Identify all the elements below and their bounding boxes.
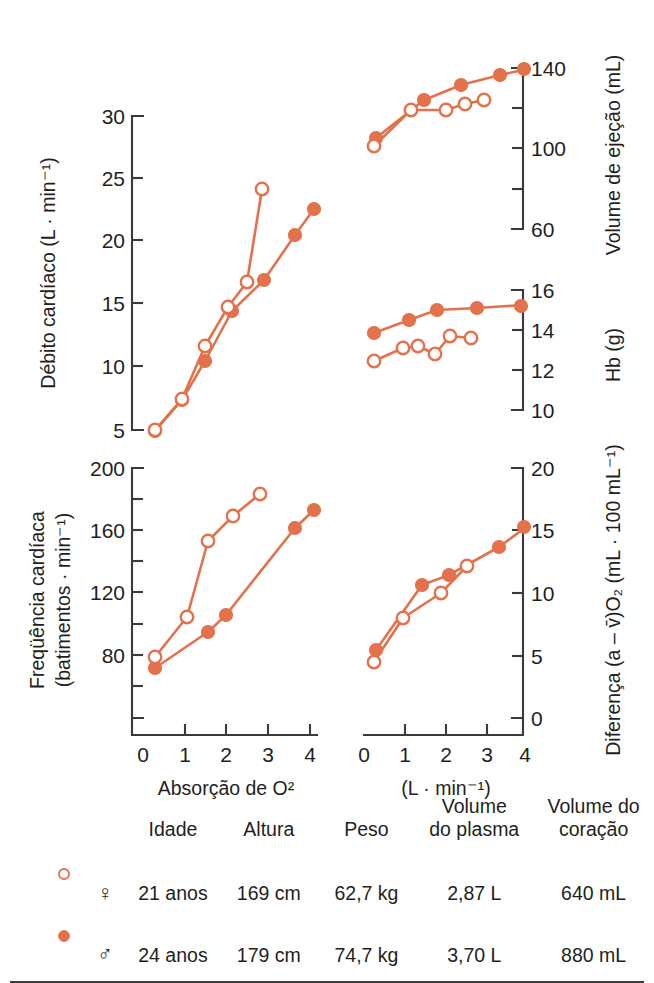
legend-row-female: ♀ 21 anos 169 cm 62,7 kg 2,87 L 640 mL	[44, 844, 654, 906]
ytick-label: 100	[531, 137, 566, 160]
xtick-label: 3	[481, 743, 493, 766]
stroke-volume-axis-title: Volume de ejeção (mL)	[602, 55, 624, 256]
legend-header-row: Idade Altura Peso Volume do plasma Volum…	[44, 795, 654, 844]
cardiac-output-axis-title: Débito cardíaco (L · min⁻¹)	[37, 157, 59, 388]
ytick-label: 12	[531, 359, 554, 382]
ytick-label: 120	[90, 581, 125, 604]
av-difference-axes	[364, 468, 523, 735]
legend-header-plasma: Volume do plasma	[415, 795, 533, 844]
xtick-label: 0	[358, 743, 370, 766]
legend-sex-header	[84, 795, 126, 844]
ytick-label: 15	[531, 519, 554, 542]
xtick-label: 2	[440, 743, 452, 766]
panel-cardiac-output: 30 25 20 15 10 5 Débito cardíaco (L · mi…	[37, 105, 320, 442]
legend-header-peso: Peso	[318, 795, 416, 844]
xtick-label: 4	[519, 743, 531, 766]
legend-cell-plasma: 3,70 L	[415, 905, 533, 967]
legend-header-idade: Idade	[126, 795, 220, 844]
ytick-label: 200	[90, 457, 125, 480]
ytick-label: 20	[531, 457, 554, 480]
legend-header-altura: Altura	[220, 795, 318, 844]
legend-header-coracao: Volume do coração	[533, 795, 654, 844]
ytick-label: 5	[113, 419, 125, 442]
series-female-markers	[368, 330, 477, 367]
legend-row-male: ♂ 24 anos 179 cm 74,7 kg 3,70 L 880 mL	[44, 905, 654, 967]
panel-av-difference: 20 15 10 5 0 Diferença (a – v̄)O₂ (mL · …	[358, 444, 624, 799]
ytick-label: 140	[531, 57, 566, 80]
xtick-label: 1	[399, 743, 411, 766]
series-male-line	[155, 510, 314, 668]
series-female-line	[155, 189, 262, 430]
legend-cell-coracao: 880 mL	[533, 905, 654, 967]
series-male-markers	[149, 504, 321, 675]
cardiac-output-y-axis	[132, 116, 143, 430]
panel-heart-rate: 200 160 120 80 Freqüência cardíaca (bati…	[26, 457, 320, 799]
heart-rate-axis-title-line2: (batimentos · min⁻¹)	[52, 513, 74, 688]
ytick-label: 10	[531, 399, 554, 422]
ytick-label: 60	[531, 218, 554, 241]
legend-cell-idade: 21 anos	[126, 844, 220, 906]
legend-cell-coracao: 640 mL	[533, 844, 654, 906]
ytick-label: 20	[102, 229, 125, 252]
heart-rate-axis-title-line1: Freqüência cardíaca	[26, 511, 48, 689]
venus-icon: ♀	[84, 844, 126, 906]
ytick-label: 15	[102, 292, 125, 315]
mars-icon: ♂	[84, 905, 126, 967]
hb-axis-title: Hb (g)	[602, 328, 624, 382]
open-circle-marker	[44, 844, 84, 906]
legend-cell-peso: 62,7 kg	[318, 844, 416, 906]
open-circle-icon	[56, 866, 72, 882]
legend-cell-plasma: 2,87 L	[415, 844, 533, 906]
ytick-label: 5	[531, 645, 543, 668]
panel-stroke-volume: 140 100 60 Volume de ejeção (mL)	[368, 55, 624, 256]
xtick-label: 2	[220, 743, 232, 766]
legend-cell-idade: 24 anos	[126, 905, 220, 967]
xtick-label: 3	[262, 743, 274, 766]
subject-legend-block: Idade Altura Peso Volume do plasma Volum…	[0, 795, 654, 983]
panel-hb: 16 14 12 10 Hb (g)	[368, 279, 624, 422]
ytick-label: 30	[102, 105, 125, 128]
ytick-label: 25	[102, 167, 125, 190]
filled-circle-marker	[44, 905, 84, 967]
ytick-label: 10	[531, 582, 554, 605]
legend-cell-peso: 74,7 kg	[318, 905, 416, 967]
ytick-label: 80	[102, 644, 125, 667]
heart-rate-axes	[132, 468, 317, 735]
xtick-label: 4	[304, 743, 316, 766]
ytick-label: 0	[531, 707, 543, 730]
subject-legend-table: Idade Altura Peso Volume do plasma Volum…	[44, 795, 654, 967]
ytick-label: 14	[531, 319, 555, 342]
series-male-markers	[370, 63, 531, 145]
ytick-label: 16	[531, 279, 554, 302]
legend-cell-altura: 179 cm	[220, 905, 318, 967]
av-difference-axis-title: Diferença (a – v̄)O₂ (mL · 100 mL⁻¹)	[602, 444, 624, 756]
xtick-label: 0	[137, 743, 149, 766]
ytick-label: 160	[90, 519, 125, 542]
xtick-label: 1	[179, 743, 191, 766]
series-female-markers	[149, 183, 268, 436]
legend-cell-altura: 169 cm	[220, 844, 318, 906]
series-male-markers	[149, 203, 321, 438]
filled-circle-icon	[56, 928, 72, 944]
legend-symbol-header	[44, 795, 84, 844]
ytick-label: 10	[102, 355, 125, 378]
